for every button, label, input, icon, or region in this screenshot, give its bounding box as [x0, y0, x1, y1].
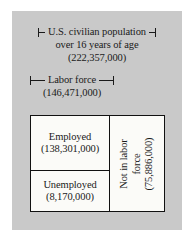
bracket-right-tick-icon [149, 28, 156, 37]
civilian-population-value: (222,357,000) [14, 52, 180, 65]
employed-cell: Employed (138,301,000) [31, 116, 109, 171]
not-in-labor-force-label-line2: force [131, 153, 144, 174]
labor-force-column: Employed (138,301,000) Unemployed (8,170… [31, 116, 110, 211]
labor-force-annotation: Labor force (146,471,000) [11, 74, 133, 100]
employed-label: Employed [49, 131, 91, 143]
not-in-labor-force-value: (75,886,000) [143, 137, 156, 190]
population-partition-box: Employed (138,301,000) Unemployed (8,170… [30, 115, 165, 212]
not-in-labor-force-cell: Not in labor force (75,886,000) [110, 116, 164, 211]
civilian-population-bracket: U.S. civilian population [14, 26, 180, 39]
unemployed-label: Unemployed [43, 179, 96, 191]
bracket-left-tick-icon [38, 28, 45, 37]
unemployed-cell: Unemployed (8,170,000) [31, 171, 109, 211]
bracket-right-tick-icon [99, 76, 114, 85]
labor-force-bracket: Labor force [11, 74, 133, 87]
bracket-left-tick-icon [30, 76, 45, 85]
not-in-labor-force-rotated-text: Not in labor force (75,886,000) [118, 117, 156, 211]
unemployed-value: (8,170,000) [46, 191, 94, 203]
civilian-population-subtitle: over 16 years of age [14, 39, 180, 52]
not-in-labor-force-label-line1: Not in labor [118, 139, 131, 189]
civilian-population-annotation: U.S. civilian population over 16 years o… [14, 26, 180, 64]
labor-force-diagram: U.S. civilian population over 16 years o… [0, 0, 192, 241]
labor-force-label: Labor force [48, 74, 96, 87]
employed-value: (138,301,000) [41, 143, 99, 155]
civilian-population-label: U.S. civilian population [48, 26, 146, 39]
labor-force-value: (146,471,000) [11, 87, 133, 100]
